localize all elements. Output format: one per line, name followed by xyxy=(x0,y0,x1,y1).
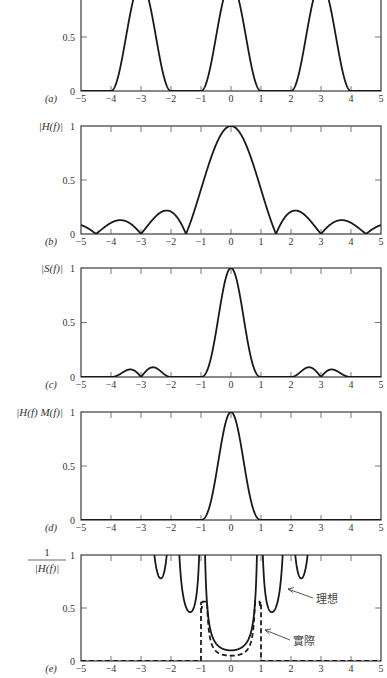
x-tick-label: 5 xyxy=(379,379,384,390)
x-tick-label: −1 xyxy=(196,663,207,674)
x-tick-label: −3 xyxy=(136,522,147,533)
panel-label: (e) xyxy=(45,663,57,675)
curve-b xyxy=(81,126,381,234)
y-tick-label: 0.5 xyxy=(63,175,76,186)
x-tick-label: 3 xyxy=(319,236,324,247)
x-tick-label: 4 xyxy=(349,663,354,674)
x-tick-label: 2 xyxy=(289,522,294,533)
panels-root: −5−4−3−2−101234500.5(a)−5−4−3−2−10123450… xyxy=(16,0,383,675)
x-tick-label: 2 xyxy=(289,93,294,104)
x-tick-label: −3 xyxy=(136,379,147,390)
arrow-actual xyxy=(265,630,290,640)
x-tick-label: −2 xyxy=(166,236,177,247)
x-tick-label: −4 xyxy=(106,522,117,533)
x-tick-label: 5 xyxy=(379,663,384,674)
x-tick-label: −1 xyxy=(196,379,207,390)
arrow-ideal xyxy=(288,589,313,598)
panel-b: −5−4−3−2−101234500.51(b)|H(f)| xyxy=(39,120,384,248)
x-tick-label: −3 xyxy=(136,93,147,104)
y-tick-label: 0 xyxy=(70,229,75,240)
x-tick-label: 3 xyxy=(319,93,324,104)
x-tick-label: −1 xyxy=(196,93,207,104)
y-tick-label: 0.5 xyxy=(63,32,76,43)
y-tick-label: 0.5 xyxy=(63,317,76,328)
y-axis-label: |H(f) M(f)| xyxy=(16,406,63,419)
x-tick-label: −4 xyxy=(106,93,117,104)
x-tick-label: −4 xyxy=(106,379,117,390)
panel-label: (a) xyxy=(45,93,58,105)
axes-frame xyxy=(81,126,381,234)
x-tick-label: 1 xyxy=(259,236,264,247)
x-tick-label: −5 xyxy=(76,522,87,533)
x-tick-label: −4 xyxy=(106,236,117,247)
axes-frame xyxy=(81,0,381,91)
x-tick-label: 2 xyxy=(289,236,294,247)
x-tick-label: 0 xyxy=(229,522,234,533)
x-tick-label: −2 xyxy=(166,522,177,533)
x-tick-label: 3 xyxy=(319,379,324,390)
x-tick-label: 0 xyxy=(229,663,234,674)
y-tick-label: 0 xyxy=(70,515,75,526)
panel-a: −5−4−3−2−101234500.5(a) xyxy=(45,0,384,105)
x-tick-label: 3 xyxy=(319,522,324,533)
y-tick-label: 0 xyxy=(70,656,75,667)
label-actual: 實際 xyxy=(293,634,315,648)
x-tick-label: 4 xyxy=(349,379,354,390)
x-tick-label: 1 xyxy=(259,522,264,533)
curve-c xyxy=(81,268,381,377)
y-tick-label: 1 xyxy=(70,550,75,561)
y-tick-label: 0 xyxy=(70,86,75,97)
curve-ideal xyxy=(345,491,373,511)
x-tick-label: −1 xyxy=(196,522,207,533)
annotation-actual: 實際 xyxy=(265,629,315,648)
y-tick-label: 1 xyxy=(70,407,75,418)
x-tick-label: −2 xyxy=(166,379,177,390)
y-tick-label: 0.5 xyxy=(63,603,76,614)
panel-label: (b) xyxy=(45,236,58,248)
x-tick-label: 3 xyxy=(319,663,324,674)
panel-label: (d) xyxy=(45,522,58,534)
curve-ideal xyxy=(88,491,116,511)
y-axis-label-numerator: 1 xyxy=(44,546,50,558)
x-tick-label: 2 xyxy=(289,379,294,390)
axes-frame xyxy=(81,555,381,661)
x-tick-label: −5 xyxy=(76,379,87,390)
x-tick-label: −3 xyxy=(136,663,147,674)
curve-ideal xyxy=(174,491,202,612)
panel-label: (c) xyxy=(45,379,57,391)
x-tick-label: 4 xyxy=(349,236,354,247)
axes-frame xyxy=(81,412,381,520)
annotation-ideal: 理想 xyxy=(288,588,338,607)
curve-ideal xyxy=(145,491,173,578)
label-ideal: 理想 xyxy=(316,592,338,606)
curve-ideal xyxy=(260,491,288,612)
x-tick-label: 1 xyxy=(259,379,264,390)
y-axis-label: |H(f)| xyxy=(39,120,63,133)
y-tick-label: 0 xyxy=(70,372,75,383)
x-tick-label: −5 xyxy=(76,93,87,104)
x-tick-label: −5 xyxy=(76,236,87,247)
x-tick-label: 1 xyxy=(259,663,264,674)
figure-canvas: −5−4−3−2−101234500.5(a)−5−4−3−2−10123450… xyxy=(0,0,387,678)
x-tick-label: 4 xyxy=(349,93,354,104)
panel-c: −5−4−3−2−101234500.51(c)|S(f)| xyxy=(41,262,383,391)
x-tick-label: 1 xyxy=(259,93,264,104)
curve-actual xyxy=(81,602,381,661)
x-tick-label: 5 xyxy=(379,522,384,533)
x-tick-label: −5 xyxy=(76,663,87,674)
x-tick-label: 0 xyxy=(229,236,234,247)
axes-frame xyxy=(81,268,381,377)
x-tick-label: 2 xyxy=(289,663,294,674)
y-tick-label: 1 xyxy=(70,263,75,274)
x-tick-label: −3 xyxy=(136,236,147,247)
y-tick-label: 0.5 xyxy=(63,461,76,472)
y-tick-label: 1 xyxy=(70,121,75,132)
x-tick-label: 5 xyxy=(379,236,384,247)
x-tick-label: 4 xyxy=(349,522,354,533)
curve-d xyxy=(81,412,381,520)
x-tick-label: −2 xyxy=(166,663,177,674)
x-tick-label: −4 xyxy=(106,663,117,674)
x-tick-label: −1 xyxy=(196,236,207,247)
curve-a xyxy=(81,0,381,91)
y-axis-label-denominator: |H(f)| xyxy=(35,562,59,575)
